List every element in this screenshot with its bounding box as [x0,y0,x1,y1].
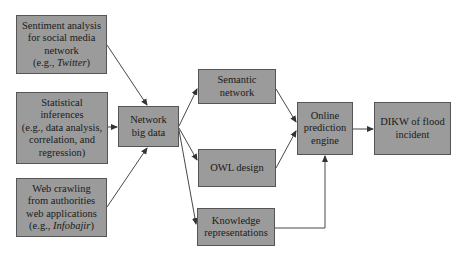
node-line: Network [130,114,167,127]
node-line: prediction [304,122,347,135]
node-example-line: (e.g., Infobajir) [26,220,97,233]
node-line: from authorities [26,195,97,208]
node-line: engine [304,135,347,148]
node-web-crawling: Web crawling from authorities web applic… [16,178,107,237]
node-line: network [217,87,256,100]
edge-webcrawl-to-network [107,148,147,207]
edge-owl-to-engine [276,131,296,168]
node-line: regression) [22,147,102,160]
node-semantic-network: Semantic network [198,69,276,104]
example-name: Twitter [57,57,87,68]
node-line: incident [380,129,445,142]
node-line: Web crawling [26,183,97,196]
node-owl-design: OWL design [198,149,276,187]
node-line: for social media [22,32,101,45]
node-line: Statistical [22,97,102,110]
node-knowledge-representations: Knowledge representations [197,208,275,246]
edge-network-to-knowledge [179,130,196,224]
node-line: Sentiment analysis [22,20,101,33]
node-line: inferences [22,109,102,122]
node-line: DIKW of flood [380,116,445,129]
node-online-prediction-engine: Online prediction engine [297,102,353,155]
example-prefix: (e.g., [29,220,53,231]
edge-network-to-semantic [179,89,197,126]
node-dikw-flood-incident: DIKW of flood incident [374,102,451,155]
node-line: web applications [26,208,97,221]
node-line: big data [130,127,167,140]
edge-knowledge-to-engine [275,156,325,228]
node-line: representations [204,227,268,240]
node-line: correlation, and [22,134,102,147]
node-sentiment-analysis: Sentiment analysis for social media netw… [16,15,107,74]
edge-sentiment-to-network [107,45,147,105]
node-line: (e.g., data analysis, [22,122,102,135]
example-prefix: (e.g., [33,57,57,68]
node-statistical-inferences: Statistical inferences (e.g., data analy… [16,92,108,164]
node-line: network [22,45,101,58]
example-suffix: ) [86,57,90,68]
example-suffix: ) [90,220,94,231]
node-line: Semantic [217,74,256,87]
node-example-line: (e.g., Twitter) [22,57,101,70]
edge-semantic-to-engine [276,89,296,122]
node-line: Online [304,110,347,123]
node-network-big-data: Network big data [118,106,179,147]
example-name: Infobajir [53,220,90,231]
node-line: Knowledge [204,215,268,228]
node-line: OWL design [210,162,264,175]
